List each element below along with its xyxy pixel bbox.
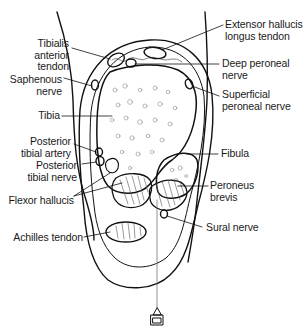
achilles-tendon-shape bbox=[106, 222, 146, 242]
leader-tibialis-anterior bbox=[72, 48, 110, 59]
label-superficial-peroneal-nerve: Superficial peroneal nerve bbox=[222, 89, 291, 112]
leader-extensor-hallucis bbox=[162, 25, 223, 50]
peroneus-brevis-muscle bbox=[149, 180, 187, 210]
tibia-bone bbox=[97, 65, 197, 193]
label-sural-nerve: Sural nerve bbox=[206, 222, 259, 234]
label-tibialis-anterior-tendon: Tibialis anterior tendon bbox=[34, 38, 69, 73]
sural-nerve-shape bbox=[161, 210, 168, 218]
leader-posterior-tibial-nerve bbox=[82, 162, 96, 164]
flexor-hallucis-muscle bbox=[112, 174, 152, 208]
flexor-hallucis-small bbox=[106, 158, 119, 172]
leader-posterior-tibial-artery bbox=[74, 144, 96, 152]
label-deep-peroneal-nerve: Deep peroneal nerve bbox=[222, 58, 290, 81]
label-extensor-hallucis-longus-tendon: Extensor hallucis longus tendon bbox=[225, 19, 303, 42]
label-fibula: Fibula bbox=[221, 148, 249, 160]
label-saphenous-nerve: Saphenous nerve bbox=[10, 74, 62, 97]
label-flexor-hallucis: Flexor hallucis bbox=[8, 195, 74, 207]
label-achilles-tendon: Achilles tendon bbox=[13, 232, 83, 244]
leader-sural bbox=[167, 216, 202, 227]
label-tibia: Tibia bbox=[38, 110, 60, 122]
label-peroneus-brevis: Peroneus brevis bbox=[210, 180, 254, 203]
needle-hub bbox=[151, 308, 163, 325]
label-posterior-tibial-artery: Posterior tibial artery bbox=[21, 136, 71, 159]
posterior-tibial-artery-shape bbox=[96, 148, 103, 156]
leg-outline-right bbox=[188, 12, 207, 262]
label-posterior-tibial-nerve: Posterior tibial nerve bbox=[27, 160, 77, 183]
